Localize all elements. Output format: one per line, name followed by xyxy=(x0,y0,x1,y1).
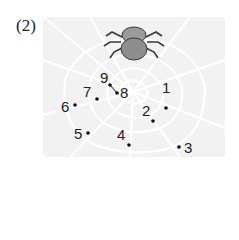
dot-label-6: 6 xyxy=(61,99,69,114)
dot-label-3: 3 xyxy=(184,140,192,155)
dot-label-9: 9 xyxy=(100,70,108,85)
dot-label-1: 1 xyxy=(162,80,170,95)
dot-label-8: 8 xyxy=(120,85,128,100)
dot-label-4: 4 xyxy=(117,127,125,142)
dot-label-5: 5 xyxy=(74,126,82,141)
dot-label-7: 7 xyxy=(83,84,91,99)
dot-label-2: 2 xyxy=(142,103,150,118)
